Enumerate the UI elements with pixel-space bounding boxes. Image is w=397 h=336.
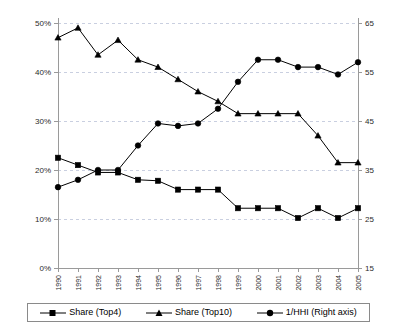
- data-series-group: [55, 25, 361, 221]
- y-axis-left-tick-label: 10%: [35, 215, 51, 224]
- x-axis-ticks: 1990199119921993199419951996199719981999…: [55, 268, 362, 291]
- square-marker-icon: [40, 308, 66, 318]
- y-axis-right-tick-label: 45: [365, 117, 374, 126]
- y-axis-right-tick-label: 25: [365, 215, 374, 224]
- x-axis-tick-label: 1991: [75, 275, 82, 291]
- x-axis-tick-label: 2004: [335, 275, 342, 291]
- legend-label-share-top4: Share (Top4): [69, 308, 121, 317]
- y-axis-left-ticks: 0%10%20%30%40%50%: [35, 19, 58, 273]
- x-axis-tick-label: 2005: [355, 275, 362, 291]
- x-axis-tick-label: 1990: [55, 275, 62, 291]
- y-axis-left-tick-label: 40%: [35, 68, 51, 77]
- series-2: [55, 25, 361, 165]
- x-axis-tick-label: 2000: [255, 275, 262, 291]
- x-axis-tick-label: 1993: [115, 275, 122, 291]
- x-axis-tick-label: 1999: [235, 275, 242, 291]
- y-axis-left-tick-label: 50%: [35, 19, 51, 28]
- series-line: [58, 60, 358, 187]
- y-axis-right-tick-label: 55: [365, 68, 374, 77]
- chart-legend: Share (Top4) Share (Top10) 1/HHI (Right …: [27, 303, 370, 322]
- legend-label-inverse-hhi: 1/HHI (Right axis): [286, 308, 357, 317]
- circle-marker-icon: [257, 308, 283, 318]
- series-line: [58, 158, 358, 218]
- triangle-marker-icon: [146, 308, 172, 318]
- y-axis-left-tick-label: 30%: [35, 117, 51, 126]
- legend-item-share-top4: Share (Top4): [40, 308, 121, 318]
- x-axis-tick-label: 2002: [295, 275, 302, 291]
- x-axis-tick-label: 1997: [195, 275, 202, 291]
- legend-item-share-top10: Share (Top10): [146, 308, 232, 318]
- series-1: [55, 155, 360, 220]
- y-axis-left-tick-label: 20%: [35, 166, 51, 175]
- x-axis-tick-label: 1994: [135, 275, 142, 291]
- chart-container: 0%10%20%30%40%50% 152535455565 199019911…: [0, 0, 397, 336]
- chart-plot-area: 0%10%20%30%40%50% 152535455565 199019911…: [0, 0, 397, 336]
- y-axis-right-tick-label: 35: [365, 166, 374, 175]
- x-axis-tick-label: 2003: [315, 275, 322, 291]
- x-axis-tick-label: 1996: [175, 275, 182, 291]
- y-axis-right-tick-label: 15: [365, 264, 374, 273]
- y-axis-right-tick-label: 65: [365, 19, 374, 28]
- x-axis-tick-label: 1998: [215, 275, 222, 291]
- legend-label-share-top10: Share (Top10): [175, 308, 232, 317]
- series-line: [58, 28, 358, 163]
- y-axis-right-ticks: 152535455565: [358, 19, 374, 273]
- x-axis-tick-label: 1995: [155, 275, 162, 291]
- axes-group: [58, 18, 358, 268]
- legend-item-inverse-hhi: 1/HHI (Right axis): [257, 308, 357, 318]
- y-axis-left-tick-label: 0%: [39, 264, 51, 273]
- x-axis-tick-label: 1992: [95, 275, 102, 291]
- x-axis-tick-label: 2001: [275, 275, 282, 291]
